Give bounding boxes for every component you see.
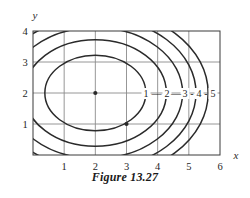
marked-point	[93, 91, 97, 95]
figure-caption: Figure 13.27	[0, 170, 250, 185]
y-axis-label: y	[32, 9, 38, 21]
x-axis-label: x	[233, 149, 239, 161]
contour-label-4: 4	[197, 88, 202, 99]
contour-label-3: 3	[183, 88, 188, 99]
contour-label-separator: -	[204, 88, 207, 99]
contour-level-labels-group: 1—2—3-4-5	[142, 88, 218, 100]
contour-label-2: 2	[165, 88, 170, 99]
y-tick-label: 2	[22, 88, 27, 99]
contour-label-separator: -	[190, 88, 193, 99]
y-tick-label: 4	[22, 26, 28, 37]
contour-label-separator: —	[151, 88, 163, 99]
y-tick-label: 1	[22, 119, 27, 130]
contour-label-5: 5	[211, 88, 216, 99]
contour-label-1: 1	[144, 88, 149, 99]
figure-container: 123456 1234 x y 1—2—3-4-5 Figure 13.27	[0, 0, 250, 198]
contour-label-separator: —	[170, 88, 182, 99]
y-tick-label: 3	[22, 57, 27, 68]
marked-point	[124, 122, 128, 126]
contour-plot-svg: 123456 1234 x y 1—2—3-4-5	[0, 0, 250, 198]
